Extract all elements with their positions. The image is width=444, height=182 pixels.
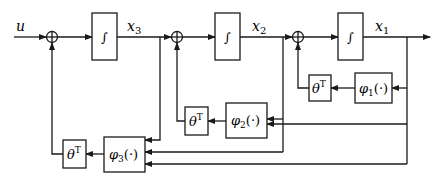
theta3-gain-block: θT (63, 140, 86, 168)
summing-junction-3 (293, 32, 304, 43)
phi3-block: φ3(·) (104, 137, 145, 172)
state-label-x2: x2 (252, 18, 266, 36)
theta1-to-sum3-wire (298, 43, 309, 88)
svg-text:φ3(·): φ3(·) (109, 147, 138, 164)
theta2-gain-block: θT (185, 107, 208, 135)
integrator-block-1: ∫ (338, 13, 363, 60)
integrator-block-2: ∫ (215, 13, 240, 60)
integral-icon: ∫ (347, 30, 354, 45)
theta2-to-sum2-wire (177, 43, 185, 121)
theta3-to-sum1-wire (52, 43, 63, 154)
integrator-block-3: ∫ (92, 13, 117, 60)
input-label-u: u (16, 18, 25, 34)
state-label-x1: x1 (375, 18, 389, 36)
phi2-block: φ2(·) (226, 103, 267, 138)
svg-text:φ1(·): φ1(·) (359, 81, 388, 98)
summing-junction-1 (47, 32, 58, 43)
integral-icon: ∫ (224, 30, 231, 45)
state-label-x3: x3 (127, 18, 141, 36)
integral-icon: ∫ (101, 30, 108, 45)
x3-to-phi3-wire (145, 37, 160, 140)
phi1-block: φ1(·) (355, 73, 392, 103)
block-diagram: u ∫ x3 ∫ x2 ∫ x1 (0, 0, 444, 182)
summing-junction-2 (172, 32, 183, 43)
svg-text:φ2(·): φ2(·) (231, 113, 260, 130)
theta1-gain-block: θT (309, 75, 331, 101)
